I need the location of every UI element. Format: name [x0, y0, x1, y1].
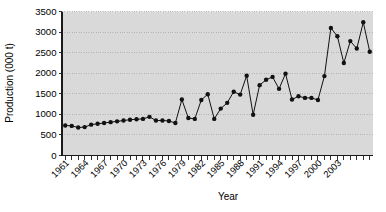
y-tick-label: 2500	[35, 47, 56, 58]
x-tick-label: 1994	[263, 158, 285, 180]
data-point-marker	[355, 46, 359, 50]
data-point-marker	[270, 75, 274, 79]
x-tick-label: 1964	[69, 158, 91, 180]
data-point-marker	[154, 118, 158, 122]
x-tick-label: 1970	[108, 158, 130, 180]
data-point-marker	[128, 118, 132, 122]
data-point-marker	[206, 92, 210, 96]
data-point-marker	[335, 34, 339, 38]
data-point-marker	[141, 117, 145, 121]
x-tick-label: 1982	[186, 158, 208, 180]
data-point-marker	[173, 121, 177, 125]
plot-area	[62, 12, 373, 156]
y-tick-label: 1500	[35, 88, 56, 99]
data-point-marker	[368, 50, 372, 54]
data-point-marker	[186, 116, 190, 120]
x-axis-title: Year	[218, 191, 239, 202]
x-tick-label: 1961	[49, 158, 71, 180]
data-point-marker	[244, 73, 248, 77]
data-point-marker	[232, 90, 236, 94]
chart-svg: 0500100015002000250030003500 19611964196…	[0, 0, 386, 212]
y-axis-title: Production (000 t)	[4, 43, 15, 123]
data-point-marker	[322, 74, 326, 78]
data-point-marker	[102, 121, 106, 125]
data-point-marker	[76, 125, 80, 129]
data-point-marker	[219, 106, 223, 110]
data-point-marker	[108, 120, 112, 124]
plot-background	[62, 12, 373, 156]
data-point-marker	[342, 61, 346, 65]
data-point-marker	[251, 113, 255, 117]
data-point-marker	[82, 125, 86, 129]
x-tick-label: 1973	[127, 158, 149, 180]
data-point-marker	[277, 87, 281, 91]
data-point-marker	[63, 123, 67, 127]
y-tick-label: 2000	[35, 67, 56, 78]
x-tick-label: 1997	[283, 158, 305, 180]
data-point-marker	[290, 97, 294, 101]
x-tick-label: 1967	[88, 158, 110, 180]
data-point-marker	[160, 118, 164, 122]
y-axis	[59, 12, 63, 156]
data-point-marker	[199, 98, 203, 102]
data-point-marker	[225, 101, 229, 105]
data-point-marker	[193, 117, 197, 121]
data-point-marker	[180, 97, 184, 101]
y-tick-label: 500	[40, 129, 56, 140]
y-tick-label: 3500	[35, 6, 56, 17]
data-point-marker	[167, 119, 171, 123]
x-tick-label: 1979	[166, 158, 188, 180]
data-point-marker	[115, 119, 119, 123]
data-point-marker	[316, 98, 320, 102]
y-tick-label: 0	[51, 150, 56, 161]
x-tick-label: 1991	[244, 158, 266, 180]
data-point-marker	[264, 78, 268, 82]
data-point-marker	[121, 118, 125, 122]
data-point-marker	[212, 117, 216, 121]
data-point-marker	[296, 94, 300, 98]
x-tick-label: 1985	[205, 158, 227, 180]
data-point-marker	[329, 26, 333, 30]
data-point-marker	[361, 20, 365, 24]
data-point-marker	[134, 117, 138, 121]
x-tick-label: 2003	[322, 158, 344, 180]
x-tick-labels: 1961196419671970197319761979198219851988…	[49, 158, 343, 180]
x-tick-label: 1976	[147, 158, 169, 180]
data-point-marker	[348, 39, 352, 43]
y-tick-labels: 0500100015002000250030003500	[35, 6, 56, 161]
data-point-marker	[257, 83, 261, 87]
y-tick-label: 3000	[35, 26, 56, 37]
data-point-marker	[95, 122, 99, 126]
data-point-marker	[309, 96, 313, 100]
x-tick-label: 1988	[224, 158, 246, 180]
data-point-marker	[283, 71, 287, 75]
y-tick-label: 1000	[35, 108, 56, 119]
data-point-marker	[147, 115, 151, 119]
production-line-chart: 0500100015002000250030003500 19611964196…	[0, 0, 386, 212]
data-point-marker	[70, 124, 74, 128]
data-point-marker	[238, 92, 242, 96]
data-point-marker	[89, 122, 93, 126]
data-point-marker	[303, 96, 307, 100]
x-tick-label: 2000	[302, 158, 324, 180]
